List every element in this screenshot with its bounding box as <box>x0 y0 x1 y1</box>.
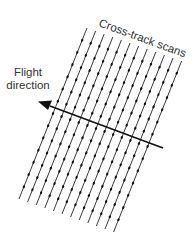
scan-sample-dot <box>94 127 97 131</box>
scan-sample-dot <box>70 90 73 94</box>
scan-sample-dot <box>141 157 144 161</box>
scan-sample-dot <box>91 111 94 115</box>
scan-sample-dot <box>93 57 96 61</box>
scan-sample-dot <box>104 102 107 106</box>
scan-sample-dot <box>100 212 103 216</box>
scan-sample-dot <box>95 99 98 103</box>
scan-sample-dot <box>130 111 133 115</box>
scan-sample-dot <box>31 188 34 192</box>
scan-sample-dot <box>81 136 84 140</box>
scan-sample-dot <box>131 181 134 185</box>
scan-sample-dot <box>133 154 136 158</box>
scan-sample-dot <box>83 81 86 85</box>
scan-sample-dot <box>103 130 106 134</box>
scan-sample-dot <box>115 148 118 152</box>
scan-sample-dot <box>158 65 161 69</box>
scan-sample-dot <box>81 38 84 42</box>
scan-sample-dot <box>22 185 25 189</box>
scan-sample-dot <box>61 185 64 189</box>
scan-sample-dot <box>118 190 121 194</box>
scan-sample-dot <box>167 68 170 72</box>
scan-sample-dot <box>152 105 155 109</box>
scan-sample-dot <box>153 78 156 82</box>
scan-sample-dot <box>53 182 56 186</box>
scan-sample-dot <box>71 160 74 164</box>
scan-sample-dot <box>136 72 139 76</box>
scan-sample-dot <box>126 96 129 100</box>
scan-sample-dot <box>137 142 140 146</box>
scan-sample-dot <box>156 120 159 124</box>
scan-sample-dot <box>108 117 111 121</box>
scan-sample-dot <box>58 169 61 173</box>
scan-sample-dot <box>140 87 143 91</box>
scan-sample-dot <box>101 60 104 64</box>
scan-sample-dot <box>75 175 78 179</box>
scan-sample-dot <box>88 166 91 170</box>
scan-sample-dot <box>143 102 146 106</box>
scan-sample-dot <box>165 96 168 100</box>
scan-sample-dot <box>60 115 63 119</box>
scan-sample-dot <box>42 136 45 140</box>
scan-sample-dot <box>141 59 144 63</box>
scan-sample-dot <box>92 181 95 185</box>
scan-sample-dot <box>109 187 112 191</box>
scan-sample-dot <box>132 56 135 60</box>
scan-sample-dot <box>63 157 66 161</box>
scan-sample-dot <box>76 51 79 55</box>
scan-sample-dot <box>106 172 109 176</box>
arrowhead-icon <box>38 101 52 111</box>
scan-sample-dot <box>157 93 160 97</box>
scan-sample-dot <box>135 99 138 103</box>
scan-lines-group <box>19 28 182 232</box>
scan-sample-dot <box>131 84 134 88</box>
scan-sample-dot <box>122 206 125 210</box>
cross-track-scans-label: Cross-track scans <box>97 17 188 60</box>
scan-sample-dot <box>77 121 80 125</box>
scan-sample-dot <box>97 72 100 76</box>
scan-sample-dot <box>61 87 64 91</box>
scan-sample-dot <box>138 114 141 118</box>
scan-sample-dot <box>66 172 69 176</box>
scan-sample-dot <box>85 151 88 155</box>
scan-sample-dot <box>59 142 62 146</box>
scan-sample-dot <box>113 105 116 109</box>
scan-sample-dot <box>67 145 70 149</box>
scan-sample-dot <box>170 84 173 88</box>
scan-sample-dot <box>71 63 74 67</box>
scan-sample-dot <box>66 75 69 79</box>
scan-sample-dot <box>72 133 75 137</box>
scan-sample-dot <box>119 66 122 70</box>
scan-sample-dot <box>75 78 78 82</box>
scan-sample-dot <box>100 87 103 91</box>
scan-sample-dot <box>55 127 58 131</box>
scan-sample-dot <box>101 184 104 188</box>
scan-sample-dot <box>129 139 132 143</box>
scan-sample-dot <box>109 90 112 94</box>
scan-sample-dot <box>78 93 81 97</box>
scan-sample-dot <box>79 66 82 70</box>
scan-sample-dot <box>86 124 89 128</box>
flight-label-line1: Flight <box>14 66 43 78</box>
scan-sample-dot <box>87 194 90 198</box>
scan-sample-dot <box>121 108 124 112</box>
scan-sample-dot <box>162 81 165 85</box>
scan-sample-dot <box>82 206 85 210</box>
scan-sample-dot <box>91 209 94 213</box>
scan-sample-dot <box>92 84 95 88</box>
scan-sample-dot <box>70 188 73 192</box>
scan-sample-dot <box>134 126 137 130</box>
scan-sample-dot <box>110 63 113 67</box>
scan-sample-dot <box>144 75 147 79</box>
scan-sample-dot <box>87 96 90 100</box>
scan-sample-dot <box>88 69 91 73</box>
scan-sample-dot <box>120 136 123 140</box>
scan-sample-dot <box>99 114 102 118</box>
scan-sample-dot <box>119 163 122 167</box>
scan-sample-dot <box>36 176 39 180</box>
scan-sample-dot <box>127 69 130 73</box>
scan-sample-dot <box>90 139 93 143</box>
scan-sample-dot <box>102 157 105 161</box>
scan-sample-dot <box>65 200 68 204</box>
scan-sample-dot <box>117 218 120 222</box>
scan-sample-dot <box>113 203 116 207</box>
